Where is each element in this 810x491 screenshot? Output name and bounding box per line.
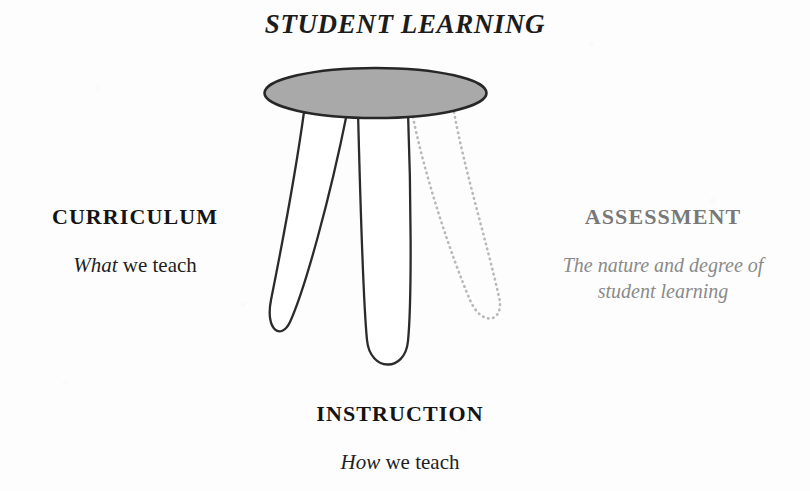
label-instruction-block: INSTRUCTION How we teach <box>275 400 525 475</box>
label-instruction-sub-emphasis: How <box>341 450 381 474</box>
stool-seat-ellipse <box>265 68 487 118</box>
stool-leg-assessment <box>412 112 500 319</box>
stool-leg-curriculum <box>270 112 347 331</box>
label-instruction-heading: INSTRUCTION <box>275 400 525 428</box>
stool-leg-instruction <box>358 112 411 365</box>
label-instruction-sub-rest: we teach <box>380 450 459 474</box>
label-instruction-sub: How we teach <box>275 449 525 475</box>
label-student-learning: STUDENT LEARNING <box>0 8 810 42</box>
label-assessment-heading: ASSESSMENT <box>538 203 788 231</box>
label-curriculum-sub-rest: we teach <box>118 253 197 277</box>
label-curriculum-block: CURRICULUM What we teach <box>10 203 260 278</box>
label-curriculum-heading: CURRICULUM <box>10 203 260 231</box>
label-assessment-block: ASSESSMENT The nature and degree of stud… <box>538 203 788 304</box>
stool-figure: STUDENT LEARNING CURRICULUM What we teac… <box>0 0 810 491</box>
label-assessment-sub: The nature and degree of student learnin… <box>538 252 788 304</box>
label-curriculum-sub: What we teach <box>10 252 260 278</box>
label-curriculum-sub-emphasis: What <box>73 253 117 277</box>
